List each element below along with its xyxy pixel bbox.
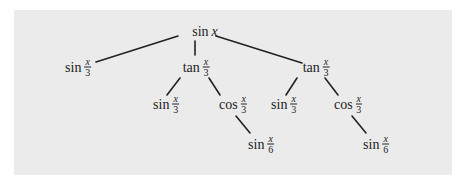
fraction: x 3 — [84, 57, 90, 78]
fraction: x 3 — [203, 57, 209, 78]
denominator: 3 — [85, 68, 90, 78]
function-name: tan — [303, 59, 320, 75]
node-l1b: tan x 3 — [183, 57, 210, 78]
node-l1c: tan x 3 — [303, 57, 330, 78]
function-name: sin — [153, 96, 169, 112]
denominator: 3 — [324, 68, 329, 78]
denominator: 6 — [268, 145, 273, 155]
edge-l2d-l3b — [352, 116, 366, 133]
fraction: x 6 — [267, 134, 273, 155]
edge-l1c-l2d — [325, 78, 338, 95]
denominator: 3 — [173, 105, 178, 115]
node-l1a: sin x 3 — [65, 57, 91, 78]
function-name: cos — [219, 96, 238, 112]
function-name: cos — [334, 96, 353, 112]
node-l2d: cos x 3 — [334, 94, 362, 115]
edge-l2b-l3a — [236, 116, 250, 133]
node-l3b: sin x 6 — [363, 134, 389, 155]
fraction: x 3 — [356, 94, 362, 115]
function-name: sin — [363, 136, 379, 152]
denominator: 3 — [356, 105, 361, 115]
denominator: 3 — [241, 105, 246, 115]
edge-l1b-l2b — [209, 78, 220, 95]
edge-root-l1a — [96, 36, 178, 62]
fraction: x 6 — [382, 134, 388, 155]
fraction: x 3 — [290, 94, 296, 115]
function-name: sin — [248, 136, 264, 152]
denominator: 3 — [291, 105, 296, 115]
function-name: sin — [192, 24, 208, 40]
node-l2a: sin x 3 — [153, 94, 179, 115]
fraction: x 3 — [241, 94, 247, 115]
function-name: sin — [271, 96, 287, 112]
node-l2c: sin x 3 — [271, 94, 297, 115]
function-name: tan — [183, 59, 200, 75]
node-root: sin x — [192, 24, 218, 40]
node-l3a: sin x 6 — [248, 134, 274, 155]
denominator: 6 — [383, 145, 388, 155]
function-name: sin — [65, 59, 81, 75]
denominator: 3 — [204, 68, 209, 78]
edge-root-l1c — [216, 36, 302, 63]
node-l2b: cos x 3 — [219, 94, 247, 115]
argument: x — [212, 24, 218, 40]
fraction: x 3 — [323, 57, 329, 78]
fraction: x 3 — [172, 94, 178, 115]
